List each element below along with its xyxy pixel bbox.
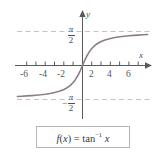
x-axis-arrow [145,62,152,68]
formula-function: tan [82,132,95,143]
x-tick-label-neg4: -4 [39,70,47,80]
formula-close-paren: ) [68,132,72,143]
formula-exponent: −1 [95,131,102,138]
x-tick-label-2: 2 [89,70,94,80]
x-tick-label-neg6: -6 [20,70,28,80]
y-axis-arrow [79,10,85,17]
asymptote-upper-label: π 2 [67,25,75,45]
formula-text: f(x) = tan−1 x [57,131,110,144]
asymptote-lower-minus: − [62,98,67,108]
x-tick-label-neg2: -2 [57,70,65,80]
y-axis-label: y [86,10,90,19]
x-tick-label-4: 4 [107,70,112,80]
formula-argument: x [105,132,110,143]
formula-box: f(x) = tan−1 x [36,126,130,148]
asymptote-lower-label: − π 2 [62,93,75,113]
asymptote-lower-numerator: π [68,93,75,102]
asymptote-upper-denominator: 2 [68,36,75,45]
x-tick-label-6: 6 [126,70,131,80]
x-axis-label: x [139,51,143,60]
asymptote-upper-numerator: π [68,25,75,34]
asymptote-lower-denominator: 2 [68,104,75,113]
arctangent-figure: -6 -4 -2 2 4 6 x y π 2 − π 2 f(x) = tan−… [0,0,163,153]
formula-equals: = [74,132,80,143]
